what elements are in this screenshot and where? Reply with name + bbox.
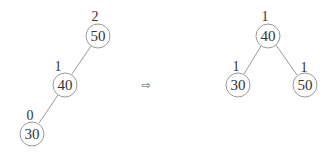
edge-40-30 [39,95,58,123]
avl-rotation-diagram: 50 2 40 1 30 0 ⇨ 40 1 30 1 50 1 [0,0,331,154]
edge-40-50 [276,45,297,75]
edge-40-30 [244,46,261,74]
node-value: 40 [261,28,276,44]
node-value: 40 [58,77,73,93]
node-height-label: 1 [233,59,240,74]
after-node-30: 30 1 [226,59,250,97]
right-arrow-icon: ⇨ [141,79,150,92]
before-node-30: 30 0 [20,108,44,146]
node-height-label: 1 [262,9,269,24]
edge-50-40 [72,46,91,74]
node-value: 50 [91,28,106,44]
node-height-label: 0 [27,108,34,123]
before-node-50: 50 2 [86,9,110,48]
after-node-50: 50 1 [293,60,317,97]
node-height-label: 2 [92,9,99,24]
after-node-40: 40 1 [256,9,280,48]
node-height-label: 1 [55,59,62,74]
node-height-label: 1 [301,60,308,75]
node-value: 30 [231,77,246,93]
before-node-40: 40 1 [53,59,77,97]
node-value: 50 [298,77,313,93]
node-value: 30 [25,126,40,142]
